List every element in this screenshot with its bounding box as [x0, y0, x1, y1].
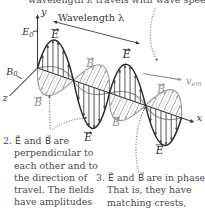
b-field-hatch — [38, 69, 40, 74]
b-field-arrow — [98, 70, 107, 89]
b-field-hatch — [101, 75, 108, 89]
e-amplitude-label: E0 — [21, 26, 33, 39]
x-axis-label: x — [197, 112, 203, 123]
b-field-hatch — [110, 94, 112, 99]
b-field-hatch — [112, 96, 119, 110]
wave-speed-label: vem — [186, 75, 202, 88]
y-axis-label: y — [40, 6, 47, 17]
b-field-hatch — [40, 71, 47, 85]
dotted-note3-pointer — [136, 109, 145, 172]
speed-arrow — [143, 74, 182, 80]
dotted-note2-pointer-e-head — [85, 117, 88, 119]
wavelength-label: Wavelength λ — [58, 12, 124, 23]
b-field-arrow — [41, 72, 50, 90]
b-field-hatch — [107, 87, 109, 92]
z-axis-label: z — [2, 92, 9, 103]
b-field-arrow — [170, 95, 179, 114]
b-field-arrow — [113, 97, 122, 115]
dotted-note2-pointer-b — [50, 97, 51, 129]
wavelength-arrow — [54, 22, 140, 44]
dotted-speed-pointer — [150, 9, 156, 60]
dotted-note2-pointer-e — [53, 118, 86, 130]
note-in-phase: 3. E⃗ and B⃗ are in phase. That is, they… — [96, 172, 205, 209]
note-perpendicular: 2. E⃗ and B⃗ are perpendicular to each o… — [3, 135, 110, 209]
e-amplitude-tick — [33, 31, 38, 32]
b-field-hatch — [173, 100, 180, 114]
b-amplitude-label: B0 — [5, 66, 17, 79]
y-axis-head — [36, 14, 40, 18]
x-axis-head — [190, 119, 195, 123]
b-field-hatch — [179, 111, 181, 116]
